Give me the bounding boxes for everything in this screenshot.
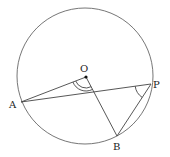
label-b: B (113, 141, 120, 152)
segment-ap (21, 84, 151, 102)
segment-oa (21, 77, 86, 102)
diagram-canvas: O A P B (0, 0, 170, 157)
angle-apb-arc (135, 86, 142, 97)
label-o: O (80, 63, 88, 74)
center-point-o (84, 75, 87, 78)
label-a: A (8, 99, 17, 110)
segment-ob (86, 77, 117, 136)
segment-pb (117, 84, 151, 136)
label-p: P (153, 79, 160, 90)
